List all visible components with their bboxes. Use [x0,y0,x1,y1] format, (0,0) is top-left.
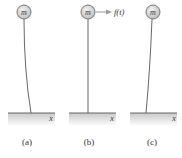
panel-caption: (c) [147,137,157,147]
force-label: f(t) [114,7,125,17]
axis-x-label: x [48,114,53,123]
axis-x-label: x [171,114,176,123]
ground-shade [8,113,55,126]
panel-caption: (b) [84,137,95,147]
ground-shade [69,113,116,126]
panel-c: m x (c) [130,5,177,147]
axis-x-label: x [109,114,114,123]
diagram-canvas: m x (a) m f(t) x (b) m x (c) [0,0,182,158]
panel-b: m f(t) x (b) [69,5,125,147]
mass-label: m [85,8,91,17]
ground-shade [130,113,177,126]
flexible-rod [146,19,152,113]
panel-caption: (a) [22,137,32,147]
force-arrow-icon [96,10,112,15]
mass-label: m [21,8,27,17]
flexible-rod [24,19,31,113]
mass-label: m [150,8,156,17]
panel-a: m x (a) [8,5,55,147]
